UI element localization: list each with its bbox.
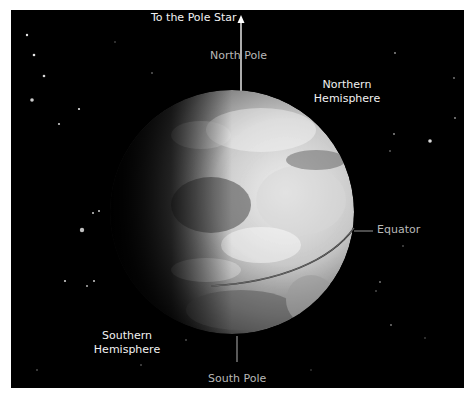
north-pole-label: North Pole <box>210 49 267 63</box>
southern-hemisphere-line2: Hemisphere <box>87 343 167 357</box>
northern-hemisphere-line1: Northern <box>307 78 387 92</box>
pole-star-label: To the Pole Star <box>151 11 236 25</box>
south-pole-label: South Pole <box>208 372 266 386</box>
northern-hemisphere-label: Northern Hemisphere <box>307 78 387 106</box>
southern-hemisphere-line1: Southern <box>87 329 167 343</box>
equator-label: Equator <box>377 223 420 237</box>
southern-hemisphere-label: Southern Hemisphere <box>87 329 167 357</box>
earth-globe <box>110 90 354 334</box>
earth-diagram <box>11 10 464 388</box>
northern-hemisphere-line2: Hemisphere <box>307 92 387 106</box>
arrow-up-icon <box>238 15 245 23</box>
diagram-frame: To the Pole Star North Pole Northern Hem… <box>11 10 464 388</box>
